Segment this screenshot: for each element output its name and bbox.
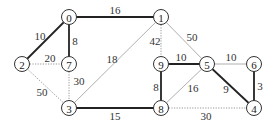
edge-weight-label: 3 [257, 80, 263, 92]
node-label: 7 [66, 59, 72, 71]
edge-weight-label: 8 [72, 35, 78, 47]
node-label: 2 [19, 59, 25, 71]
edge-weight-label: 30 [74, 75, 86, 87]
edge-weight-label: 50 [187, 31, 199, 43]
edge-weight-label: 16 [110, 4, 122, 16]
edge-weight-label: 16 [188, 82, 200, 94]
graph-node-9: 9 [154, 57, 169, 72]
edge-weight-label: 8 [153, 81, 159, 93]
edge-5-8 [161, 64, 207, 108]
node-label: 6 [251, 59, 257, 71]
edges-layer [22, 17, 254, 108]
edge-weight-label: 18 [107, 53, 119, 65]
node-label: 1 [158, 12, 164, 24]
edge-weight-label: 30 [201, 110, 213, 122]
graph-node-8: 8 [154, 101, 169, 116]
graph-node-1: 1 [154, 10, 169, 25]
edge-weight-label: 10 [176, 51, 188, 63]
graph-diagram: 161082050301842501010816931530 012795638… [0, 0, 272, 125]
node-label: 0 [66, 12, 72, 24]
edge-weight-label: 10 [226, 51, 238, 63]
graph-node-0: 0 [62, 10, 77, 25]
edge-5-4 [207, 64, 254, 108]
node-label: 3 [66, 103, 72, 115]
edge-weight-label: 20 [45, 52, 57, 64]
graph-node-3: 3 [62, 101, 77, 116]
graph-node-5: 5 [200, 57, 215, 72]
edge-weight-label: 10 [35, 30, 47, 42]
node-label: 4 [251, 103, 257, 115]
node-label: 8 [158, 103, 164, 115]
graph-node-2: 2 [15, 57, 30, 72]
edge-weight-label: 50 [37, 86, 49, 98]
graph-node-4: 4 [247, 101, 262, 116]
edge-weight-label: 15 [110, 110, 122, 122]
node-label: 5 [204, 59, 210, 71]
graph-node-6: 6 [247, 57, 262, 72]
node-label: 9 [158, 59, 164, 71]
edge-weight-label: 42 [150, 35, 161, 47]
edge-weight-label: 9 [223, 83, 229, 95]
graph-node-7: 7 [62, 57, 77, 72]
